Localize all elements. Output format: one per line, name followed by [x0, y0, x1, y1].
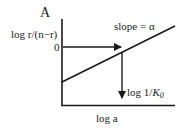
- diagram: A log r/(n−r) 0 slope = α log 1/K0 log a: [0, 0, 188, 129]
- y-axis-label: log r/(n−r): [11, 28, 58, 41]
- zero-tick-label: 0: [54, 41, 60, 53]
- panel-label: A: [40, 5, 51, 20]
- x-axis-label: log a: [96, 112, 118, 124]
- regression-line: [62, 26, 175, 82]
- intercept-label-prefix: log 1/: [127, 86, 153, 98]
- slope-label: slope = α: [114, 20, 155, 32]
- intercept-label-sub: 0: [160, 91, 164, 100]
- intercept-label: log 1/K0: [127, 86, 164, 100]
- y-axis-label-text: log r/(n−r): [11, 28, 58, 41]
